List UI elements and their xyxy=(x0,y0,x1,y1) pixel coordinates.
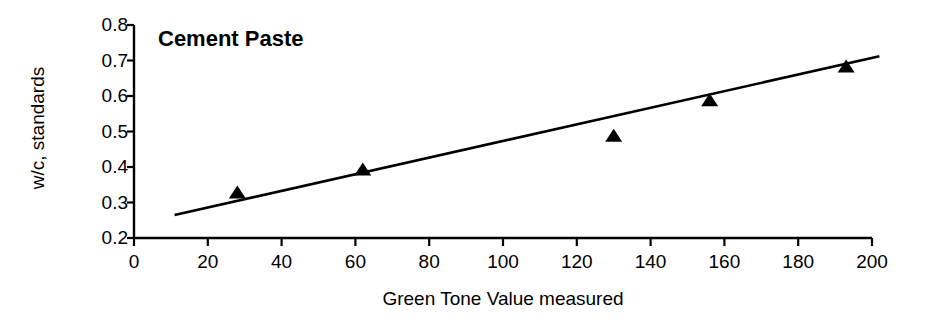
data-point-marker xyxy=(354,162,371,175)
axes xyxy=(127,25,872,246)
x-axis-tick-label: 40 xyxy=(252,251,312,273)
x-axis-tick-label: 140 xyxy=(621,251,681,273)
x-axis-tick-label: 160 xyxy=(694,251,754,273)
x-axis-tick-labels: 020406080100120140160180200 xyxy=(0,251,935,279)
x-axis-tick-label: 60 xyxy=(325,251,385,273)
x-axis-tick-label: 200 xyxy=(842,251,902,273)
trend-line-segment xyxy=(175,56,880,215)
trend-line xyxy=(175,56,880,215)
x-axis-tick-label: 100 xyxy=(473,251,533,273)
data-markers xyxy=(229,60,855,199)
x-axis-tick-label: 80 xyxy=(399,251,459,273)
x-axis-tick-label: 120 xyxy=(547,251,607,273)
x-axis-tick-label: 180 xyxy=(768,251,828,273)
x-axis-tick-label: 0 xyxy=(104,251,164,273)
x-axis-title: Green Tone Value measured xyxy=(134,288,872,310)
x-axis-tick-label: 20 xyxy=(178,251,238,273)
chart-title: Cement Paste xyxy=(158,26,304,52)
data-point-marker xyxy=(229,186,246,199)
data-point-marker xyxy=(605,129,622,142)
chart-container: w/c, standards 0.20.30.40.50.60.70.8 Cem… xyxy=(0,0,935,328)
